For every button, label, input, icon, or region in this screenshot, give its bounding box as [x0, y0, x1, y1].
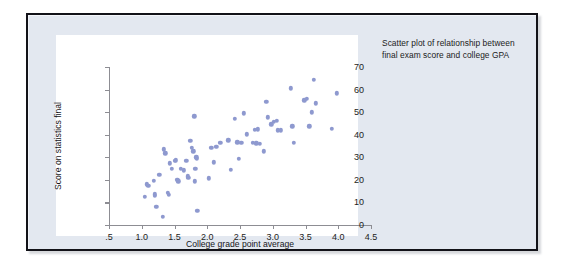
x-tick [240, 225, 241, 229]
data-point [229, 167, 233, 171]
data-point [184, 159, 188, 163]
x-tick [207, 225, 208, 229]
x-tick-label: 2.0 [201, 232, 214, 242]
x-tick-label: .5 [105, 232, 113, 242]
data-point [143, 195, 147, 199]
data-point [193, 166, 197, 170]
data-point [170, 167, 174, 171]
data-point [181, 168, 185, 172]
x-tick-label: 4.0 [332, 232, 345, 242]
data-point [214, 145, 218, 149]
data-point [226, 138, 230, 142]
y-tick [105, 135, 109, 136]
y-tick-label: 60 [354, 85, 364, 95]
data-point [278, 128, 282, 132]
x-tick [175, 225, 176, 229]
data-point [209, 146, 213, 150]
data-point [236, 157, 240, 161]
data-point [176, 179, 180, 183]
data-point [305, 97, 309, 101]
plot-area: 010203040506070 .51.01.52.02.53.03.54.04… [109, 67, 371, 225]
y-tick-label: 0 [359, 220, 364, 230]
data-point [195, 208, 199, 212]
figure-frame: Score on statistics final College grade … [26, 13, 538, 251]
y-tick-label: 40 [354, 130, 364, 140]
data-point [192, 114, 196, 118]
x-tick-label: 4.5 [365, 232, 378, 242]
x-tick-label: 1.5 [168, 232, 181, 242]
y-tick-label: 10 [354, 197, 364, 207]
data-point [261, 149, 265, 153]
y-tick [105, 67, 109, 68]
data-point [310, 110, 314, 114]
data-point [161, 215, 165, 219]
data-point [257, 141, 261, 145]
data-point [239, 141, 243, 145]
data-point [242, 111, 246, 115]
y-tick-label: 50 [354, 107, 364, 117]
data-point [312, 77, 316, 81]
data-point [191, 149, 195, 153]
x-tick-label: 2.5 [234, 232, 247, 242]
x-tick [338, 225, 339, 229]
x-tick [109, 225, 110, 229]
x-tick-label: 3.5 [299, 232, 312, 242]
data-point [188, 139, 192, 143]
data-point [153, 194, 157, 198]
x-tick [142, 225, 143, 229]
data-point [212, 160, 216, 164]
x-tick-label: 1.0 [135, 232, 148, 242]
data-point [186, 176, 190, 180]
data-point [157, 172, 161, 176]
data-point [292, 141, 296, 145]
scatter-chart: Score on statistics final College grade … [36, 23, 358, 241]
data-point [168, 161, 172, 165]
data-point [244, 132, 248, 136]
x-tick-label: 3.0 [266, 232, 279, 242]
data-point [289, 86, 293, 90]
y-tick [105, 180, 109, 181]
figure-caption: Scatter plot of relationship between fin… [382, 37, 522, 62]
data-point [314, 101, 318, 105]
y-tick [105, 90, 109, 91]
data-point [218, 141, 222, 145]
data-point [335, 91, 339, 95]
data-point [233, 116, 237, 120]
data-point [255, 127, 259, 131]
y-tick-label: 70 [354, 62, 364, 72]
data-point [265, 115, 269, 119]
data-point [151, 179, 155, 183]
data-point [264, 99, 268, 103]
x-tick [371, 225, 372, 229]
y-tick-label: 30 [354, 152, 364, 162]
data-point [174, 158, 178, 162]
y-axis-line [109, 67, 110, 225]
x-tick [273, 225, 274, 229]
y-tick [105, 202, 109, 203]
y-axis-title: Score on statistics final [53, 102, 63, 190]
data-point [206, 176, 210, 180]
data-point [274, 119, 278, 123]
data-point [163, 151, 167, 155]
y-tick [105, 112, 109, 113]
data-point [307, 124, 311, 128]
data-point [329, 127, 333, 131]
data-point [195, 157, 199, 161]
y-tick-label: 20 [354, 175, 364, 185]
x-tick [306, 225, 307, 229]
data-point [290, 124, 294, 128]
data-point [166, 193, 170, 197]
data-point [146, 184, 150, 188]
data-point [154, 205, 158, 209]
data-point [193, 179, 197, 183]
y-tick [105, 157, 109, 158]
